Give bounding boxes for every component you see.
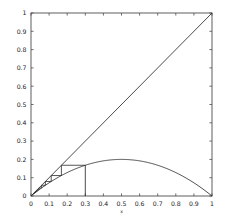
x-tick-label: 0.8	[171, 200, 181, 207]
x-tick-label: 1	[210, 200, 214, 207]
y-tick-label: 0.8	[17, 46, 27, 53]
x-tick-label: 0.5	[117, 200, 127, 207]
logistic-map-cobweb-figure: 00.10.20.30.40.50.60.70.80.91 00.10.20.3…	[0, 0, 226, 223]
x-tick-label: 0.7	[153, 200, 163, 207]
x-tick-label: 0.4	[98, 200, 108, 207]
x-tick-label: 0.1	[44, 200, 54, 207]
y-tick-label: 0.9	[17, 28, 27, 35]
y-tick-label: 0	[23, 192, 27, 199]
x-tick-label: 0.9	[189, 200, 199, 207]
x-tick-label: 0.3	[80, 200, 90, 207]
y-tick-label: 0.6	[17, 83, 27, 90]
y-tick-label: 0.3	[17, 137, 27, 144]
x-tick-label: 0.2	[62, 200, 72, 207]
y-tick-label: 0.7	[17, 64, 27, 71]
x-axis-title: x	[120, 209, 123, 214]
y-tick-label: 0.1	[17, 174, 27, 181]
y-tick-label: 1	[23, 9, 27, 16]
x-tick-label: 0	[29, 200, 33, 207]
y-tick-label: 0.5	[17, 101, 27, 108]
y-tick-label: 0.4	[17, 119, 27, 126]
x-tick-label: 0.6	[135, 200, 145, 207]
y-tick-label: 0.2	[17, 156, 27, 163]
chart-canvas: 00.10.20.30.40.50.60.70.80.91 00.10.20.3…	[0, 0, 226, 223]
